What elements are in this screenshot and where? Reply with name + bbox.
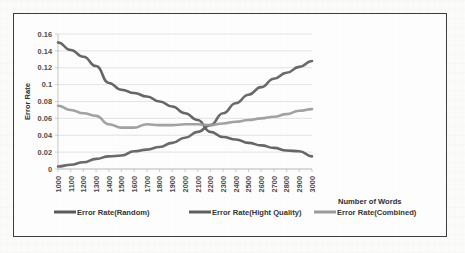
legend-label: Error Rate(Combined) (337, 208, 417, 217)
x-tick-label: 2300 (219, 176, 228, 192)
y-tick-label: 0.14 (38, 47, 53, 56)
y-tick-label: 0.08 (38, 97, 52, 106)
x-tick-label: 2200 (206, 176, 215, 192)
x-tick-label: 1900 (168, 176, 177, 192)
y-axis-tick-labels: 00.020.040.060.080.10.120.140.16 (38, 30, 53, 174)
chart-legend: Error Rate(Random)Error Rate(Hight Quali… (54, 208, 417, 217)
x-axis-tick-labels: 1000110012001300140015001600170018001900… (54, 176, 317, 192)
series-line-0 (58, 42, 312, 156)
y-tick-label: 0.06 (38, 114, 52, 123)
x-tick-label: 1300 (92, 176, 101, 192)
x-tick-label: 1700 (143, 176, 152, 192)
x-tick-label: 1800 (155, 176, 164, 192)
x-tick-label: 2000 (181, 176, 190, 192)
x-tick-label: 1200 (79, 176, 88, 192)
x-axis-title: Number of Words (338, 197, 402, 206)
legend-item-0[interactable]: Error Rate(Random) (54, 208, 150, 217)
x-tick-label: 3000 (308, 176, 317, 192)
y-tick-label: 0.1 (42, 80, 52, 89)
y-tick-label: 0.04 (38, 131, 53, 140)
x-tick-label: 1100 (67, 176, 76, 192)
x-tick-label: 2400 (232, 176, 241, 192)
y-tick-label: 0.12 (38, 63, 52, 72)
x-tick-label: 2600 (257, 176, 266, 192)
y-axis-title: Error Rate (23, 83, 32, 120)
x-tick-marks (58, 169, 312, 172)
data-series-group (58, 42, 312, 166)
legend-item-1[interactable]: Error Rate(Hight Quality) (189, 208, 302, 217)
chart-container: 00.020.040.060.080.10.120.140.16 1000110… (13, 13, 447, 237)
x-tick-label: 2100 (194, 176, 203, 192)
y-tick-label: 0.02 (38, 148, 52, 157)
x-tick-label: 1400 (105, 176, 114, 192)
y-tick-label: 0.16 (38, 30, 52, 39)
x-tick-label: 1500 (117, 176, 126, 192)
series-line-2 (58, 106, 312, 128)
chart-plot-area: 00.020.040.060.080.10.120.140.16 1000110… (14, 14, 446, 236)
y-tick-label: 0 (48, 165, 52, 174)
line-chart: 00.020.040.060.080.10.120.140.16 1000110… (14, 14, 448, 238)
x-tick-label: 2800 (282, 176, 291, 192)
x-tick-label: 2900 (295, 176, 304, 192)
x-tick-label: 1000 (54, 176, 63, 192)
legend-item-2[interactable]: Error Rate(Combined) (314, 208, 417, 217)
y-tick-marks (55, 34, 58, 169)
legend-label: Error Rate(Random) (77, 208, 150, 217)
x-tick-label: 1600 (130, 176, 139, 192)
x-tick-label: 2500 (244, 176, 253, 192)
legend-label: Error Rate(Hight Quality) (212, 208, 302, 217)
x-tick-label: 2700 (270, 176, 279, 192)
